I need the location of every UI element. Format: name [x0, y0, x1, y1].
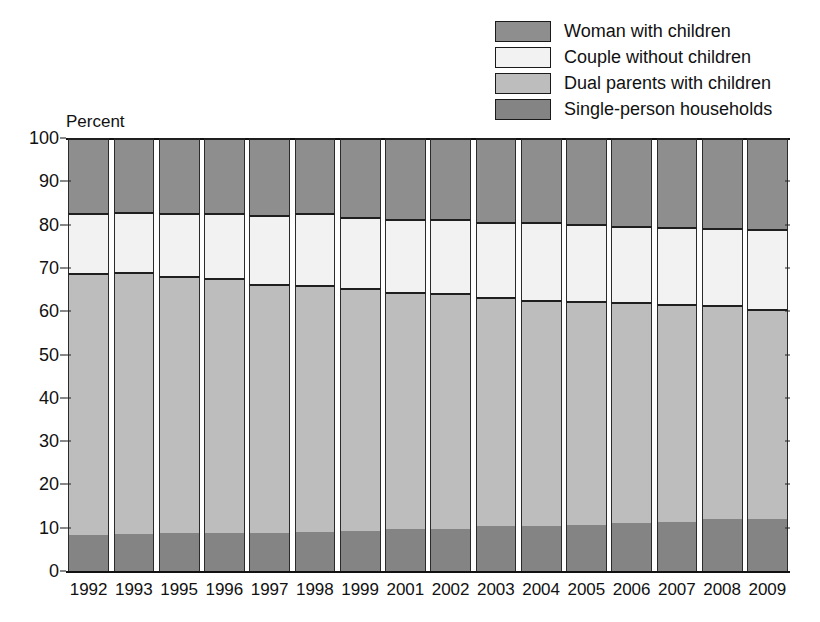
bar-segment[interactable]: [747, 309, 788, 519]
bar-1992[interactable]: [68, 138, 109, 571]
bar-2006[interactable]: [611, 138, 652, 571]
bar-1995[interactable]: [159, 138, 200, 571]
y-tick-label: 60: [39, 301, 59, 322]
bar-segment[interactable]: [295, 285, 336, 532]
y-tick-label: 90: [39, 171, 59, 192]
bar-segment[interactable]: [249, 533, 290, 571]
bar-segment[interactable]: [385, 529, 426, 571]
legend-item-couple-without-children: Couple without children: [495, 44, 815, 70]
bar-segment[interactable]: [340, 288, 381, 531]
legend-item-single-person-households: Single-person households: [495, 96, 815, 122]
bar-segment[interactable]: [295, 532, 336, 571]
bar-segment[interactable]: [657, 227, 698, 304]
bar-segment[interactable]: [159, 533, 200, 571]
y-tick-label: 0: [49, 561, 59, 582]
bar-2007[interactable]: [657, 138, 698, 571]
bar-segment[interactable]: [430, 219, 471, 293]
bar-2003[interactable]: [476, 138, 517, 571]
bar-segment[interactable]: [747, 138, 788, 229]
x-tick-label: 2002: [428, 580, 473, 600]
bar-1997[interactable]: [249, 138, 290, 571]
bar-segment[interactable]: [295, 213, 336, 285]
bar-segment[interactable]: [385, 219, 426, 292]
bar-segment[interactable]: [68, 273, 109, 535]
bar-segment[interactable]: [521, 526, 562, 571]
bar-segment[interactable]: [114, 138, 155, 212]
bar-2009[interactable]: [747, 138, 788, 571]
bar-segment[interactable]: [611, 138, 652, 226]
bar-segment[interactable]: [702, 228, 743, 306]
bar-segment[interactable]: [657, 304, 698, 522]
bar-segment[interactable]: [159, 276, 200, 533]
bar-segment[interactable]: [611, 226, 652, 302]
bar-2005[interactable]: [566, 138, 607, 571]
bar-segment[interactable]: [249, 215, 290, 284]
bar-segment[interactable]: [611, 302, 652, 523]
bar-segment[interactable]: [295, 138, 336, 213]
bar-segment[interactable]: [566, 525, 607, 571]
legend-label-woman-with-children: Woman with children: [564, 21, 731, 41]
bar-1998[interactable]: [295, 138, 336, 571]
bar-segment[interactable]: [476, 222, 517, 297]
x-tick-label: 2007: [654, 580, 699, 600]
bar-segment[interactable]: [476, 297, 517, 526]
bar-2004[interactable]: [521, 138, 562, 571]
x-tick-label: 2003: [473, 580, 518, 600]
bar-segment[interactable]: [747, 229, 788, 308]
bar-segment[interactable]: [657, 522, 698, 571]
bar-segment[interactable]: [430, 138, 471, 219]
bar-segment[interactable]: [657, 138, 698, 227]
bar-segment[interactable]: [385, 138, 426, 219]
bar-segment[interactable]: [340, 138, 381, 217]
bar-segment[interactable]: [566, 301, 607, 524]
bar-segment[interactable]: [68, 213, 109, 273]
bar-segment[interactable]: [521, 138, 562, 222]
bar-2008[interactable]: [702, 138, 743, 571]
bar-segment[interactable]: [68, 535, 109, 571]
bar-segment[interactable]: [249, 284, 290, 533]
y-tick-mark-inner-right: [785, 224, 790, 225]
bar-segment[interactable]: [430, 529, 471, 571]
bar-segment[interactable]: [566, 138, 607, 224]
y-tick-label: 40: [39, 387, 59, 408]
bar-1996[interactable]: [204, 138, 245, 571]
bar-segment[interactable]: [114, 272, 155, 534]
x-tick-label: 2009: [745, 580, 790, 600]
stacked-bar-chart: Woman with children Couple without child…: [0, 0, 820, 622]
bar-segment[interactable]: [114, 534, 155, 571]
x-tick-label: 2004: [519, 580, 564, 600]
bar-1999[interactable]: [340, 138, 381, 571]
bar-segment[interactable]: [204, 138, 245, 213]
bar-segment[interactable]: [702, 138, 743, 228]
bar-segment[interactable]: [114, 212, 155, 273]
bar-segment[interactable]: [159, 213, 200, 276]
bar-segment[interactable]: [385, 292, 426, 529]
bar-segment[interactable]: [249, 138, 290, 215]
bar-segment[interactable]: [702, 305, 743, 519]
bar-segment[interactable]: [159, 138, 200, 213]
y-tick-label: 70: [39, 257, 59, 278]
bar-segment[interactable]: [204, 213, 245, 278]
bar-2001[interactable]: [385, 138, 426, 571]
legend-label-dual-parents-with-children: Dual parents with children: [564, 73, 771, 93]
bar-segment[interactable]: [521, 222, 562, 300]
bar-segment[interactable]: [566, 224, 607, 302]
bar-2002[interactable]: [430, 138, 471, 571]
y-tick-mark-inner: [66, 224, 71, 225]
bar-segment[interactable]: [476, 526, 517, 571]
bar-segment[interactable]: [204, 533, 245, 571]
bar-segment[interactable]: [340, 531, 381, 571]
bar-segment[interactable]: [430, 293, 471, 529]
plot-area: 0102030405060708090100 19921993199519961…: [66, 138, 790, 571]
bar-segment[interactable]: [611, 523, 652, 571]
bar-segment[interactable]: [476, 138, 517, 222]
bar-1993[interactable]: [114, 138, 155, 571]
bar-segment[interactable]: [702, 519, 743, 571]
bar-segment[interactable]: [204, 278, 245, 533]
bar-segment[interactable]: [340, 217, 381, 288]
bar-segment[interactable]: [747, 519, 788, 571]
y-tick-mark-inner-right: [785, 484, 790, 485]
bar-segment[interactable]: [521, 300, 562, 526]
y-tick-mark-inner-right: [785, 527, 790, 528]
bar-segment[interactable]: [68, 138, 109, 213]
